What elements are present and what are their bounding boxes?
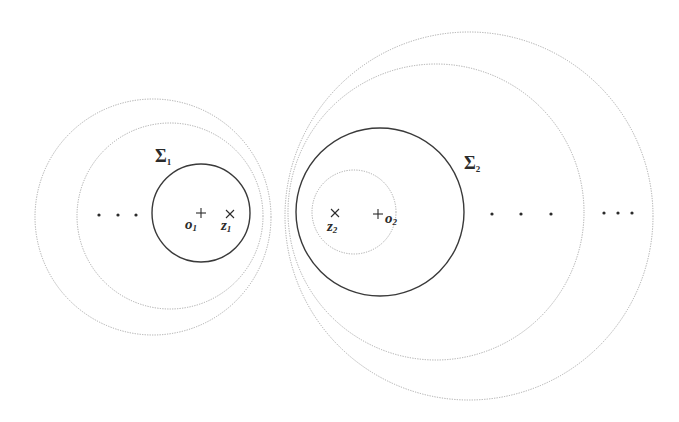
z2-label: z2 bbox=[326, 218, 338, 235]
right-outer-dotted-circle bbox=[285, 32, 653, 400]
right-circle-group: Σ2 o2 z2 bbox=[285, 32, 653, 400]
left-outer-dotted-circle bbox=[35, 99, 271, 335]
sigma1-label: Σ1 bbox=[155, 146, 172, 167]
z2-cross-icon bbox=[331, 209, 339, 217]
left-circle-group: Σ1 o1 z1 bbox=[35, 99, 271, 335]
o1-plus-icon bbox=[196, 208, 206, 218]
right-inner-dotted-circle bbox=[312, 170, 396, 254]
diagram-canvas: Σ1 o1 z1 bbox=[0, 0, 679, 422]
z1-cross-icon bbox=[226, 210, 234, 218]
o2-plus-icon bbox=[373, 209, 383, 219]
sigma2-circle bbox=[296, 128, 464, 296]
z1-label: z1 bbox=[220, 217, 231, 234]
sigma2-label: Σ2 bbox=[464, 153, 481, 174]
right-near-ellipsis bbox=[490, 212, 552, 215]
left-ellipsis bbox=[97, 213, 137, 216]
right-far-ellipsis bbox=[602, 211, 633, 214]
left-middle-dotted-circle bbox=[77, 123, 263, 309]
right-middle-dotted-circle bbox=[288, 64, 584, 360]
o1-label: o1 bbox=[185, 216, 197, 233]
